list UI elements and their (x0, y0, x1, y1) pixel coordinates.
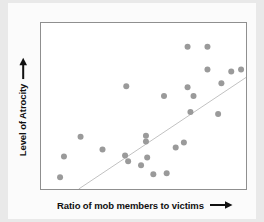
data-point (125, 158, 131, 164)
data-point (218, 80, 224, 86)
data-point (215, 111, 221, 117)
x-axis-label: Ratio of mob members to victims (40, 196, 250, 214)
data-point (61, 153, 67, 159)
data-point (185, 84, 191, 90)
data-points-group (57, 44, 244, 180)
data-point (100, 146, 106, 152)
data-point (122, 152, 128, 158)
arrow-up-icon (19, 56, 27, 78)
scatter-plot-svg (41, 23, 246, 189)
data-point (185, 44, 191, 50)
data-point (143, 133, 149, 139)
plot-area (40, 22, 247, 190)
arrow-right-icon (210, 201, 233, 209)
data-point (187, 109, 193, 115)
data-point (57, 174, 63, 180)
y-axis-label: Level of Atrocity (10, 22, 36, 190)
data-point (161, 93, 167, 99)
data-point (204, 44, 210, 50)
data-point (78, 134, 84, 140)
data-point (238, 66, 244, 72)
y-axis-label-text: Level of Atrocity (18, 83, 29, 155)
data-point (143, 139, 149, 145)
data-point (150, 171, 156, 177)
data-point (228, 68, 234, 74)
data-point (173, 145, 179, 151)
data-point (204, 66, 210, 72)
data-point (123, 83, 129, 89)
data-point (138, 162, 144, 168)
data-point (191, 93, 197, 99)
data-point (144, 154, 150, 160)
figure-root: Level of Atrocity Ratio of mob members t… (0, 0, 264, 222)
data-point (181, 140, 187, 146)
data-point (164, 170, 170, 176)
x-axis-label-text: Ratio of mob members to victims (57, 200, 204, 211)
